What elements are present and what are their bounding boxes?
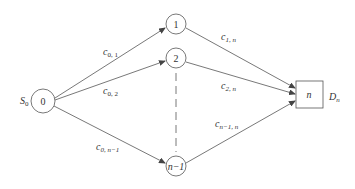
node-n-label: n (307, 89, 312, 100)
source-label: S0 (20, 95, 29, 108)
sink-label: Dn (328, 91, 340, 104)
network-diagram: 0 1 2 n−1 n S0 Dn c0, 1 c0, 2 c0, n−1 c1… (0, 0, 355, 189)
edge-label-2-n: c2, n (221, 80, 236, 93)
node-2-label: 2 (174, 53, 179, 64)
node-1-label: 1 (174, 19, 179, 30)
edge-0-1 (55, 28, 165, 98)
edge-label-n-1-n: cn−1, n (215, 118, 239, 131)
edge-0-n-1 (54, 106, 165, 163)
edge-n-1-n (186, 101, 295, 163)
edge-2-n (186, 62, 295, 94)
node-n-1-label: n−1 (168, 161, 185, 172)
edge-label-0-1: c0, 1 (103, 46, 118, 59)
node-0-label: 0 (41, 96, 46, 107)
edge-label-1-n: c1, n (221, 31, 236, 44)
edge-label-0-n-1: c0, n−1 (96, 141, 119, 154)
edge-label-0-2: c0, 2 (103, 85, 118, 98)
edge-1-n (186, 28, 295, 88)
